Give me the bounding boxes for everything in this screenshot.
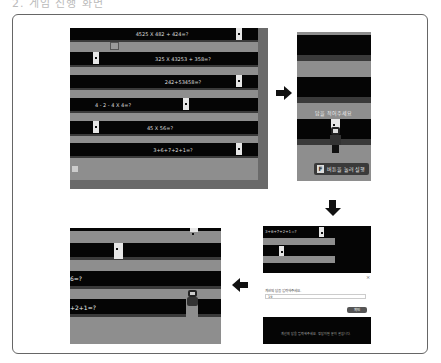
lane-edge bbox=[70, 88, 258, 90]
door bbox=[93, 52, 99, 64]
speech-bubble: 답을 적어주세요 bbox=[315, 109, 352, 116]
footer-text: 계산의 답을 입력해주세요. 정답이면 문이 열립니다. bbox=[281, 332, 351, 336]
arrow-right-icon bbox=[276, 86, 292, 100]
start-marker bbox=[72, 166, 78, 172]
lane-edge bbox=[297, 55, 371, 61]
block-marker bbox=[110, 42, 119, 50]
lane bbox=[263, 256, 335, 263]
lane-edge bbox=[70, 257, 221, 260]
equation-label: 4525 X 482 + 424=? bbox=[122, 31, 202, 37]
door bbox=[236, 143, 242, 155]
action-button-label: 버튼을 눌러 실행 bbox=[327, 165, 365, 172]
door bbox=[183, 98, 189, 110]
section-title: 2. 게임 진행 화면 bbox=[12, 0, 104, 10]
bottom-rail bbox=[70, 180, 268, 189]
character-approach-view: 답을 적어주세요 F 버튼을 눌러 실행 bbox=[297, 32, 371, 181]
door bbox=[236, 28, 242, 40]
lane-edge bbox=[70, 40, 258, 42]
close-icon[interactable]: × bbox=[366, 274, 370, 280]
game-preview: 3+6+7+2+1=? bbox=[263, 226, 371, 273]
equation-label: 3+6+7+2+1=? bbox=[265, 229, 297, 234]
lane-edge bbox=[70, 134, 258, 136]
player-character-icon bbox=[187, 290, 198, 306]
lane-edge bbox=[297, 97, 371, 103]
f-key-icon: F bbox=[317, 165, 324, 173]
arrow-left-icon bbox=[232, 278, 248, 292]
lane bbox=[70, 228, 221, 231]
lane-edge bbox=[70, 286, 221, 289]
door bbox=[319, 227, 324, 237]
player-character-icon bbox=[330, 127, 341, 153]
answer-input[interactable]: 19 bbox=[265, 294, 366, 299]
lane bbox=[297, 77, 371, 97]
door bbox=[114, 243, 123, 259]
prompt-label: 계산의 답을 입력해주세요. bbox=[265, 288, 301, 293]
equation-label: 6=? bbox=[70, 275, 82, 282]
lane bbox=[263, 238, 335, 245]
arrow-down-icon bbox=[325, 200, 341, 216]
side-rail bbox=[258, 28, 268, 189]
equation-label: 325 X 43253 + 358=? bbox=[138, 56, 228, 62]
door bbox=[190, 228, 198, 232]
answer-input-dialog: 3+6+7+2+1=? × 계산의 답을 입력해주세요. 19 확인 계산의 답… bbox=[263, 226, 372, 344]
lane-edge bbox=[70, 156, 258, 158]
door-open-result-view: 6=? +2+1=? bbox=[70, 228, 221, 344]
door bbox=[236, 75, 242, 87]
equation-label: +2+1=? bbox=[70, 304, 96, 311]
equation-label: 45 X 56=? bbox=[130, 125, 190, 131]
lane bbox=[70, 243, 221, 257]
footer-bar: 계산의 답을 입력해주세요. 정답이면 문이 열립니다. bbox=[263, 317, 371, 344]
lane-edge bbox=[70, 111, 258, 113]
lane bbox=[297, 35, 371, 55]
equation-label: 4 - 2 - 4 X 4=? bbox=[78, 102, 148, 108]
submit-button[interactable]: 확인 bbox=[347, 307, 367, 313]
math-lane-game-overview: 4525 X 482 + 424=? 325 X 43253 + 358=? 2… bbox=[70, 28, 268, 189]
lane-edge bbox=[70, 65, 258, 67]
equation-label: 3+6+7+2+1=? bbox=[138, 147, 208, 153]
lane-edge bbox=[70, 314, 221, 317]
door bbox=[93, 121, 99, 133]
door bbox=[279, 246, 284, 256]
action-button[interactable]: F 버튼을 눌러 실행 bbox=[314, 163, 369, 175]
equation-label: 242+53458=? bbox=[148, 79, 218, 85]
lane bbox=[70, 271, 221, 286]
